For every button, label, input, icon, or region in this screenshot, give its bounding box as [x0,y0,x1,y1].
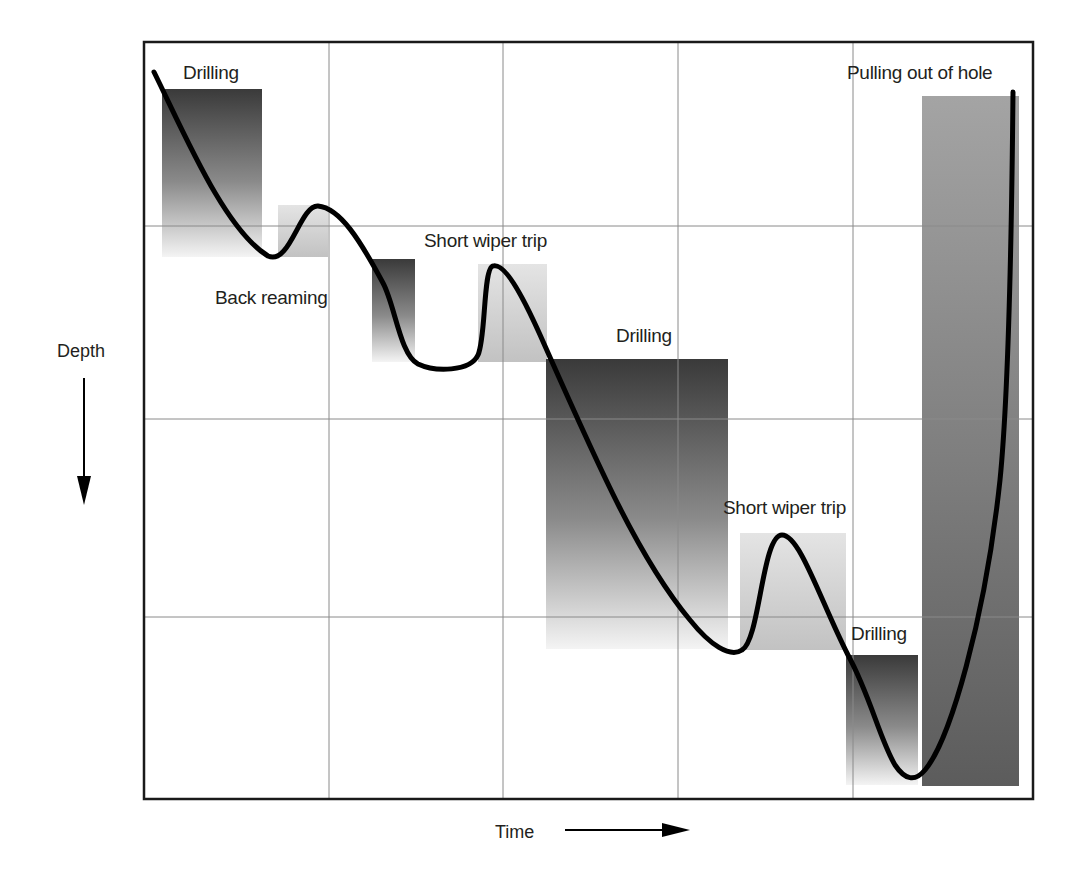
y-axis-label: Depth [57,341,105,361]
right-arrow-icon [565,823,690,837]
label-back-reaming: Back reaming [215,287,328,308]
label-short-wiper-trip-2: Short wiper trip [723,497,846,518]
x-axis-label: Time [495,822,534,842]
phase-box-drilling-3 [546,359,728,649]
label-drilling-2: Drilling [616,325,672,346]
label-drilling-3: Drilling [851,623,907,644]
label-short-wiper-trip-1: Short wiper trip [424,230,547,251]
phase-boxes [162,89,1019,786]
label-drilling-1: Drilling [183,62,239,83]
depth-time-diagram: Drilling Back reaming Short wiper trip D… [0,0,1082,890]
down-arrow-icon [77,378,91,505]
label-pulling-out-of-hole: Pulling out of hole [847,62,992,83]
phase-box-short-wiper-trip-2 [740,533,846,650]
